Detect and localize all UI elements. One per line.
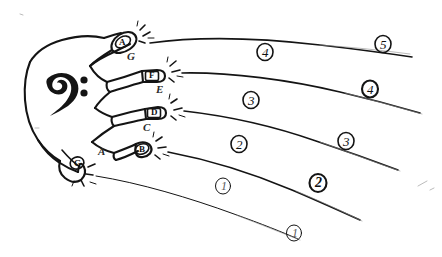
pluck-mark-ring [169, 94, 185, 120]
note-label-c: C [143, 122, 150, 133]
string-top-a [150, 39, 412, 57]
hand-diagram-drawing: .ink { fill:none; stroke:#141414; stroke… [0, 0, 442, 257]
strings [96, 39, 422, 240]
string-pinky-d [168, 152, 360, 220]
pluck-mark-index [137, 21, 154, 43]
fingertip-label-index: A [119, 38, 126, 47]
string-ring-c [184, 111, 398, 170]
string-number-3-upper: 3 [248, 94, 255, 107]
string-number-2-upper: 2 [236, 138, 243, 151]
string-mid-b [182, 73, 420, 113]
note-label-a: A [98, 146, 105, 157]
string-number-4-upper: 4 [262, 46, 269, 59]
string-number-2-lower: 2 [315, 176, 322, 190]
string-thumb-e [96, 176, 298, 239]
string-thumb-e-tail [236, 215, 300, 240]
fingertip-label-middle: F [149, 71, 155, 80]
string-mid-b-tail [345, 93, 422, 114]
note-label-g: G [127, 51, 135, 62]
string-ring-c-tail [320, 142, 400, 171]
fingertip-label-pinky: B [139, 145, 145, 154]
fingertip-label-thumb: G [74, 159, 81, 168]
pluck-mark-middle [167, 57, 183, 82]
sketch-canvas: .ink { fill:none; stroke:#141414; stroke… [0, 0, 442, 257]
string-number-5-upper: 5 [380, 38, 387, 51]
fingertip-label-ring: D [151, 108, 158, 117]
note-label-e: E [156, 84, 163, 95]
string-number-4-lower: 4 [367, 83, 374, 96]
string-number-1-lower: 1 [292, 227, 298, 239]
fingertip-pads [68, 32, 166, 171]
string-number-1-upper: 1 [221, 180, 227, 192]
pluck-mark-pinky [153, 132, 169, 159]
string-number-3-lower: 3 [343, 135, 350, 148]
bass-clef-symbol [46, 73, 87, 116]
